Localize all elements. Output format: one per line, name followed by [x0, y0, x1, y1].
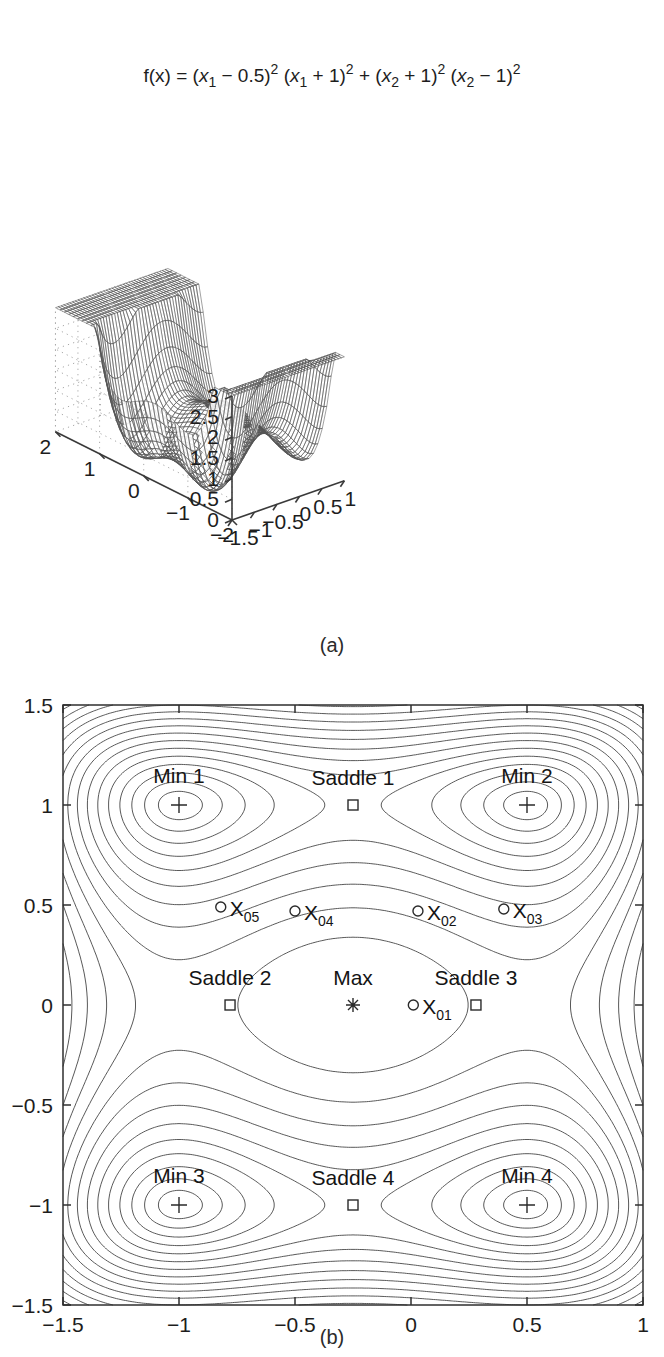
- svg-text:1: 1: [637, 1313, 649, 1336]
- svg-text:3: 3: [207, 384, 219, 407]
- start-point-label: X05: [230, 897, 260, 925]
- svg-text:0.5: 0.5: [24, 894, 53, 917]
- svg-text:1: 1: [345, 487, 357, 510]
- svg-text:1.5: 1.5: [24, 694, 53, 717]
- svg-text:−0.5: −0.5: [12, 1094, 53, 1117]
- start-point-label: X02: [427, 901, 457, 929]
- svg-text:−1: −1: [29, 1194, 53, 1217]
- svg-text:0: 0: [405, 1313, 417, 1336]
- svg-text:2.5: 2.5: [190, 405, 219, 428]
- svg-text:0: 0: [300, 502, 312, 525]
- svg-text:0.5: 0.5: [512, 1313, 541, 1336]
- start-point-label: X04: [304, 901, 334, 929]
- panel-b-contour-plot: −1.5−1−0.500.511.510.50−0.5−1−1.5 Min 1M…: [0, 672, 664, 1357]
- svg-text:−0.5: −0.5: [262, 510, 303, 533]
- svg-text:−1: −1: [167, 1313, 191, 1336]
- contour-tick-labels: −1.5−1−0.500.511.510.50−0.5−1−1.5: [12, 694, 649, 1336]
- figure-container: f(x) = (x1 − 0.5)2 (x1 + 1)2 + (x2 + 1)2…: [0, 0, 664, 1357]
- svg-text:0.5: 0.5: [190, 487, 219, 510]
- svg-text:−1: −1: [166, 501, 190, 524]
- svg-text:1: 1: [207, 467, 219, 490]
- caption-b: (b): [320, 1326, 344, 1348]
- caption-a: (a): [320, 634, 344, 656]
- critical-point-label: Saddle 4: [312, 1166, 395, 1189]
- critical-point-label: Min 1: [153, 764, 204, 787]
- svg-text:1.5: 1.5: [190, 446, 219, 469]
- svg-text:2: 2: [207, 425, 219, 448]
- critical-point-label: Min 2: [501, 764, 552, 787]
- svg-text:0: 0: [128, 479, 140, 502]
- critical-point-labels: Min 1Min 2Min 3Min 4Saddle 1Saddle 2Sadd…: [153, 764, 553, 1189]
- panel-a-surface-plot: f(x) = (x1 − 0.5)2 (x1 + 1)2 + (x2 + 1)2…: [0, 0, 664, 672]
- plot-title-equation: f(x) = (x1 − 0.5)2 (x1 + 1)2 + (x2 + 1)2…: [143, 61, 520, 90]
- start-point-label: X03: [513, 899, 543, 927]
- critical-point-label: Min 3: [153, 1164, 204, 1187]
- critical-point-label: Saddle 1: [312, 766, 395, 789]
- start-point-label: X01: [422, 995, 452, 1023]
- critical-point-label: Max: [333, 966, 373, 989]
- critical-point-markers: [171, 797, 535, 1213]
- svg-text:−0.5: −0.5: [274, 1313, 315, 1336]
- critical-point-label: Min 4: [501, 1164, 553, 1187]
- svg-text:2: 2: [40, 435, 52, 458]
- svg-text:1: 1: [41, 794, 53, 817]
- surface-plot-svg: f(x) = (x1 − 0.5)2 (x1 + 1)2 + (x2 + 1)2…: [0, 0, 664, 672]
- svg-text:0: 0: [41, 994, 53, 1017]
- critical-point-label: Saddle 3: [435, 966, 518, 989]
- contour-plot-svg: −1.5−1−0.500.511.510.50−0.5−1−1.5 Min 1M…: [0, 672, 664, 1357]
- critical-point-label: Saddle 2: [189, 966, 272, 989]
- svg-text:−1.5: −1.5: [12, 1294, 53, 1317]
- svg-text:1: 1: [84, 457, 96, 480]
- svg-text:0.5: 0.5: [313, 495, 342, 518]
